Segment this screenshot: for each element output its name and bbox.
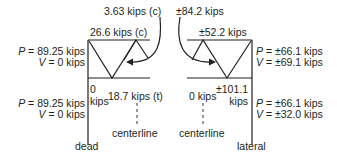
lateral-top-member-force: ±52.2 kips xyxy=(199,27,247,38)
lateral-diagonals xyxy=(192,40,251,78)
lateral-caption: lateral xyxy=(237,141,266,152)
dead-arrowhead-icon xyxy=(126,59,133,66)
dead-top-member-force: 26.6 kips (c) xyxy=(90,27,147,38)
lateral-upper-V: V = ±69.1 kips xyxy=(256,57,323,68)
lateral-centerline-label: centerline xyxy=(179,128,225,139)
dead-bottom-left-value: 0 xyxy=(90,84,96,95)
lateral-bottom-right-value: ±101.1 xyxy=(216,84,248,95)
lateral-lower-V: V = ±32.0 kips xyxy=(256,109,323,120)
lateral-diagonal-callout-label: ±84.2 kips xyxy=(176,6,224,17)
dead-bottom-left-unit: kips xyxy=(90,96,109,107)
dead-centerline-label: centerline xyxy=(112,128,158,139)
dead-caption: dead xyxy=(75,141,98,152)
dead-upper-V: V = 0 kips xyxy=(39,57,85,68)
dead-diagonals xyxy=(89,40,148,78)
truss-diagram xyxy=(0,0,337,154)
dead-diagonal-partial xyxy=(124,40,136,60)
dead-bottom-chord-force: 18.7 kips (t) xyxy=(108,91,163,102)
lateral-bottom-right-unit: kips xyxy=(229,96,248,107)
lateral-bottom-chord-force: 0 kips xyxy=(189,91,216,102)
dead-lower-V: V = 0 kips xyxy=(39,109,85,120)
dead-diagonal-callout-label: 3.63 kips (c) xyxy=(104,6,161,17)
